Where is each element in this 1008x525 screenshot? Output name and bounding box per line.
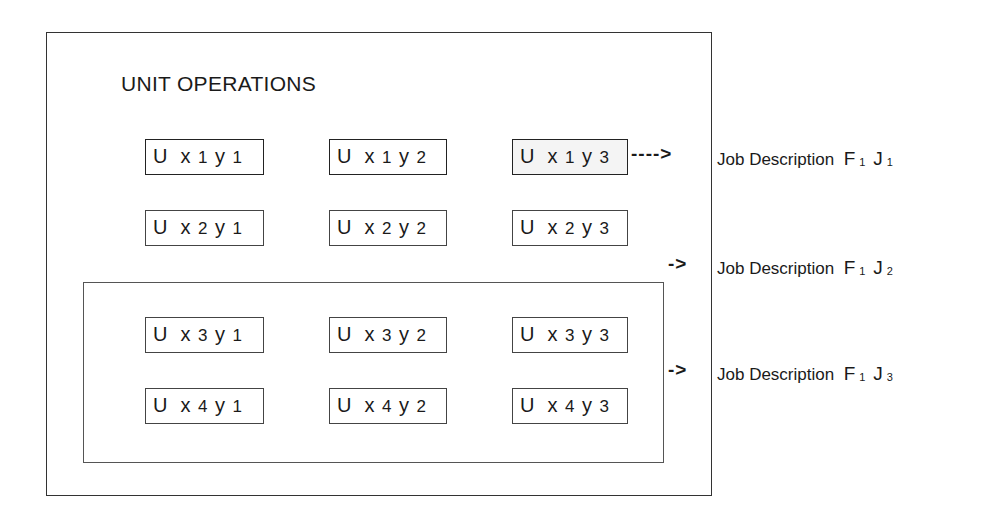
unit-x: x xyxy=(547,145,558,167)
unit-y: y xyxy=(399,394,410,416)
job-j-subscript: 1 xyxy=(887,156,893,168)
unit-x2y3: Ux 2 y 3 xyxy=(512,210,628,246)
unit-x2y2: Ux 2 y 2 xyxy=(329,210,447,246)
unit-y: y xyxy=(582,394,593,416)
unit-y: y xyxy=(399,216,410,238)
unit-y: y xyxy=(582,323,593,345)
unit-y-index: 2 xyxy=(417,326,427,345)
unit-x-index: 2 xyxy=(382,219,392,238)
unit-y: y xyxy=(399,323,410,345)
unit-x1y3: Ux 1 y 3 xyxy=(512,139,628,175)
unit-y: y xyxy=(582,145,593,167)
arrow-icon: -> xyxy=(668,253,687,275)
unit-x2y1: Ux 2 y 1 xyxy=(145,210,264,246)
unit-letter: U xyxy=(520,216,535,238)
job-description-f1-j2: Job Description F1J2 xyxy=(717,257,901,279)
unit-y-index: 2 xyxy=(417,219,427,238)
unit-letter: U xyxy=(337,394,352,416)
unit-letter: U xyxy=(153,394,168,416)
unit-y-index: 1 xyxy=(233,326,243,345)
job-text: Job Description xyxy=(717,150,834,169)
unit-x: x xyxy=(180,145,191,167)
unit-y-index: 2 xyxy=(417,397,427,416)
job-text: Job Description xyxy=(717,259,834,278)
unit-letter: U xyxy=(153,145,168,167)
unit-x: x xyxy=(547,323,558,345)
unit-letter: U xyxy=(337,145,352,167)
unit-x3y3: Ux 3 y 3 xyxy=(512,317,628,353)
unit-letter: U xyxy=(153,323,168,345)
arrow-icon: -> xyxy=(668,359,687,381)
unit-x: x xyxy=(364,394,375,416)
unit-x: x xyxy=(180,323,191,345)
job-f-subscript: 1 xyxy=(859,265,865,277)
unit-x1y1: Ux 1 y 1 xyxy=(145,139,264,175)
unit-x-index: 4 xyxy=(198,397,208,416)
unit-x4y2: Ux 4 y 2 xyxy=(329,388,447,424)
unit-letter: U xyxy=(337,216,352,238)
unit-x-index: 1 xyxy=(382,148,392,167)
unit-x-index: 4 xyxy=(565,397,575,416)
unit-x-index: 3 xyxy=(198,326,208,345)
unit-x: x xyxy=(180,216,191,238)
unit-y: y xyxy=(215,323,226,345)
job-f: F xyxy=(844,257,856,278)
unit-y: y xyxy=(582,216,593,238)
unit-y-index: 1 xyxy=(233,219,243,238)
unit-x3y2: Ux 3 y 2 xyxy=(329,317,447,353)
unit-x: x xyxy=(364,145,375,167)
unit-y-index: 3 xyxy=(600,397,610,416)
unit-y: y xyxy=(399,145,410,167)
unit-x-index: 2 xyxy=(565,219,575,238)
unit-y-index: 3 xyxy=(600,148,610,167)
unit-x: x xyxy=(364,323,375,345)
job-j-subscript: 2 xyxy=(887,265,893,277)
job-description-f1-j1: Job Description F1J1 xyxy=(717,148,901,170)
job-f-subscript: 1 xyxy=(859,371,865,383)
unit-x1y2: Ux 1 y 2 xyxy=(329,139,447,175)
dashed-arrow-icon: ----> xyxy=(631,143,672,165)
job-f: F xyxy=(844,363,856,384)
unit-x-index: 1 xyxy=(565,148,575,167)
job-description-f1-j3: Job Description F1J3 xyxy=(717,363,901,385)
unit-x4y3: Ux 4 y 3 xyxy=(512,388,628,424)
unit-y-index: 1 xyxy=(233,397,243,416)
job-j: J xyxy=(873,257,883,278)
job-f-subscript: 1 xyxy=(859,156,865,168)
unit-y: y xyxy=(215,216,226,238)
unit-letter: U xyxy=(520,145,535,167)
unit-y: y xyxy=(215,145,226,167)
unit-x-index: 4 xyxy=(382,397,392,416)
job-text: Job Description xyxy=(717,365,834,384)
unit-x-index: 2 xyxy=(198,219,208,238)
unit-x-index: 3 xyxy=(382,326,392,345)
unit-x: x xyxy=(547,216,558,238)
unit-x3y1: Ux 3 y 1 xyxy=(145,317,264,353)
job-j: J xyxy=(873,363,883,384)
unit-x-index: 3 xyxy=(565,326,575,345)
unit-x-index: 1 xyxy=(198,148,208,167)
diagram-title: UNIT OPERATIONS xyxy=(121,72,316,96)
unit-x: x xyxy=(364,216,375,238)
unit-y-index: 2 xyxy=(417,148,427,167)
unit-letter: U xyxy=(520,323,535,345)
unit-y-index: 3 xyxy=(600,219,610,238)
unit-letter: U xyxy=(520,394,535,416)
unit-y-index: 3 xyxy=(600,326,610,345)
unit-y: y xyxy=(215,394,226,416)
unit-x: x xyxy=(180,394,191,416)
job-j: J xyxy=(873,148,883,169)
job-j-subscript: 3 xyxy=(887,371,893,383)
job-f: F xyxy=(844,148,856,169)
unit-group-box-rows-3-4 xyxy=(83,282,664,463)
unit-letter: U xyxy=(153,216,168,238)
unit-y-index: 1 xyxy=(233,148,243,167)
unit-x4y1: Ux 4 y 1 xyxy=(145,388,264,424)
unit-x: x xyxy=(547,394,558,416)
unit-letter: U xyxy=(337,323,352,345)
